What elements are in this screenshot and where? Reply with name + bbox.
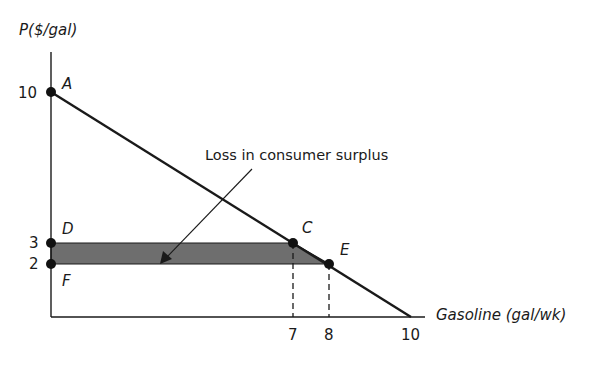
point-E-marker (324, 259, 334, 269)
y-tick-10: 10 (18, 86, 37, 101)
x-axis-label: Gasoline (gal/wk) (436, 308, 566, 323)
loss-consumer-surplus-region (51, 243, 329, 264)
point-C-label: C (302, 221, 312, 236)
demand-curve (51, 92, 411, 317)
y-tick-2: 2 (29, 257, 39, 272)
x-tick-10: 10 (401, 328, 420, 343)
point-F-marker (46, 259, 56, 269)
point-A-marker (46, 87, 56, 97)
point-D-marker (46, 238, 56, 248)
x-tick-8: 8 (324, 328, 334, 343)
point-F-label: F (62, 274, 71, 289)
point-A-label: A (62, 77, 72, 92)
annotation-label: Loss in consumer surplus (205, 148, 388, 163)
point-E-label: E (340, 243, 349, 258)
y-axis-label: P($/gal) (19, 23, 77, 38)
y-tick-3: 3 (29, 236, 39, 251)
point-D-label: D (62, 222, 74, 237)
point-C-marker (288, 238, 298, 248)
x-tick-7: 7 (288, 328, 298, 343)
